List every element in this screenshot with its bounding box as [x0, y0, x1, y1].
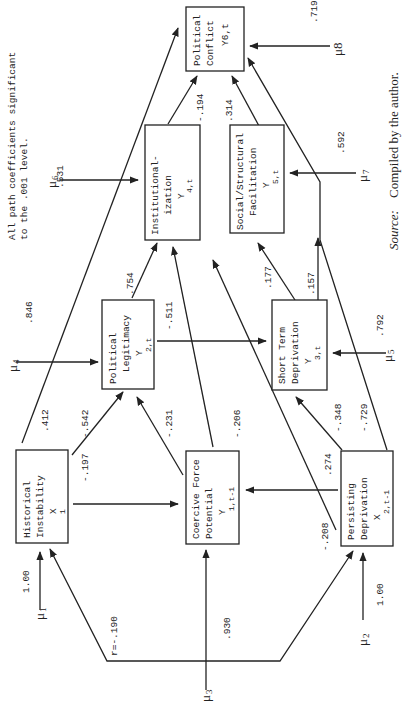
disturbance-u5-label: μ — [380, 355, 395, 362]
node-variable-sub: 3,t — [313, 346, 322, 360]
node-social-structural-facilitation: Social/Structural Facilitation Y 5,t — [230, 125, 284, 233]
disturbance-u2-label: μ — [355, 639, 370, 646]
edges — [16, 28, 387, 690]
node-coercive-force-potential: Coercive Force Potential Y 1,t-1 — [186, 451, 239, 544]
disturbance-u7-label: μ — [355, 175, 370, 182]
node-label-line1: Political — [192, 14, 203, 66]
edge-correlation-x1-x2 — [50, 549, 353, 661]
path-diagram: Political Conflict Y6,t Institutional- i… — [0, 0, 404, 724]
node-label-line2: Instability — [35, 475, 46, 538]
node-political-conflict: Political Conflict Y6,t — [186, 7, 244, 71]
coef-persisting-to-shortterm: -.348 — [333, 403, 344, 432]
node-variable-sub: 4,t — [185, 179, 194, 193]
source-prefix: Source: — [386, 210, 401, 250]
node-short-term-deprivation: Short Term Deprivation Y 3,t — [272, 300, 327, 390]
disturbance-u1-coef: 1.00 — [21, 570, 32, 593]
source-text: Compiled by the author. — [386, 72, 401, 198]
node-label-line1: Persisting — [346, 483, 357, 540]
significance-note: All path coefficients significant to the… — [7, 52, 30, 240]
coef-hist-to-coercive: -.197 — [80, 453, 91, 482]
disturbance-u1-sub: 1 — [38, 608, 48, 613]
disturbance-u7-sub: 7 — [361, 169, 371, 174]
disturbance-u5-coef: .792 — [375, 314, 386, 337]
node-label-line1: Short Term — [277, 327, 288, 384]
disturbance-u5-sub: 5 — [386, 349, 396, 354]
coef-persisting-to-coercive: .274 — [323, 453, 334, 476]
node-historical-instability: Historical Instability X 1 — [16, 450, 68, 543]
coef-correlation-x1-x2: r=-.190 — [109, 616, 120, 656]
coef-legitimacy-to-institutionalization: .754 — [125, 272, 136, 295]
coef-hist-to-legitimacy: -.542 — [80, 409, 91, 438]
disturbance-u2-sub: 2 — [361, 634, 371, 639]
node-variable-sub: 2,t-1 — [382, 490, 391, 514]
source-caption: Source: Compiled by the author. — [386, 72, 401, 250]
disturbance-u3-coef: .930 — [222, 617, 233, 640]
edge-coercive-to-institutionalization — [173, 247, 213, 447]
node-label-line2: Conflict — [205, 20, 216, 66]
node-variable-sub: 2,t — [144, 338, 153, 352]
coef-coercive-to-legitimacy: -.231 — [164, 409, 175, 438]
disturbance-u6-coef: .531 — [55, 165, 66, 188]
coef-persisting-to-conflict: -.729 — [359, 403, 370, 432]
disturbance-u4-coef: .846 — [24, 301, 35, 324]
coef-shortterm-to-social: .157 — [306, 272, 317, 295]
disturbance-u7-coef: .592 — [336, 131, 347, 154]
node-label-line1: Coercive Force — [191, 459, 202, 539]
edge-social-to-conflict — [232, 76, 259, 126]
note-line1: All path coefficients significant — [7, 52, 18, 240]
node-label-line1: Institutional- — [150, 155, 161, 235]
node-label-line1: Historical — [22, 481, 33, 538]
note-line2: to the .001 level. — [19, 137, 30, 240]
disturbance-u4-sub: 4 — [11, 359, 21, 364]
node-label-line2: Deprivation — [359, 477, 370, 540]
node-institutionalization: Institutional- ization Y 4,t — [145, 125, 200, 240]
node-variable-sub: 1,t-1 — [227, 487, 236, 511]
disturbance-u8-label: μ8 — [330, 43, 345, 56]
coef-hist-to-conflict: .412 — [40, 409, 51, 432]
coef-shortterm-to-institutionalization: .177 — [263, 266, 274, 289]
coef-persisting-to-institutionalization: -.208 — [320, 522, 331, 551]
node-label-line2: Potential — [204, 487, 215, 539]
node-variable-sub: 1 — [58, 509, 67, 514]
disturbance-u8-coef: .719 — [309, 0, 320, 23]
disturbance-u3-label: μ — [198, 695, 213, 702]
node-label-line1: Political — [108, 332, 119, 384]
disturbance-u2-coef: 1.00 — [375, 583, 386, 606]
disturbance-u3-sub: 3 — [204, 689, 214, 694]
node-variable: Y6,t — [220, 23, 231, 46]
coef-coercive-to-institutionalization: -.206 — [232, 409, 243, 438]
node-political-legitimacy: Political Legitimacy Y 2,t — [102, 300, 154, 389]
coef-legitimacy-to-shortterm: -.511 — [164, 301, 175, 330]
edge-institutionalization-to-conflict — [168, 76, 197, 124]
node-label-line1: Social/Structural — [235, 133, 246, 230]
coef-institutionalization-to-conflict: -.194 — [195, 93, 206, 122]
node-variable-sub: 5,t — [271, 170, 280, 184]
edge-coercive-to-legitimacy — [137, 397, 183, 475]
node-label-line2: ization — [163, 175, 174, 215]
node-label-line2: Legitimacy — [121, 315, 132, 372]
disturbance-u4-label: μ — [5, 365, 20, 372]
node-label-line2: Deprivation — [290, 321, 301, 384]
disturbance-u1-label: μ — [32, 613, 47, 620]
coef-social-to-conflict: .314 — [224, 99, 235, 122]
node-persisting-deprivation: Persisting Deprivation X 2,t-1 — [341, 451, 393, 546]
node-label-line2: Facilitation — [248, 148, 259, 216]
